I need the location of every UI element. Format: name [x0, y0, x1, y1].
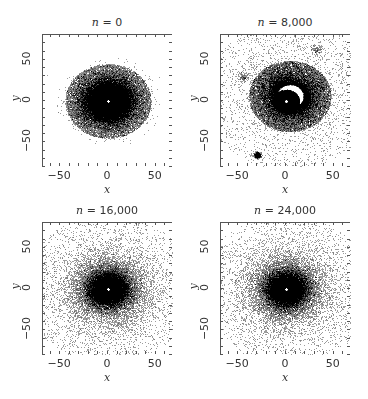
y-tick-mark [169, 288, 172, 289]
y-tick-mark [169, 42, 172, 43]
x-tick-mark [50, 351, 51, 354]
y-tick-mark [169, 34, 172, 35]
x-tick-mark [247, 222, 248, 225]
x-tick-mark [323, 163, 324, 166]
x-tick-label: 0 [104, 169, 111, 182]
x-tick-mark [247, 351, 248, 354]
x-tick-mark [97, 222, 98, 225]
x-tick-mark [285, 34, 286, 37]
y-tick-mark [169, 255, 172, 256]
x-tick-mark [285, 163, 286, 166]
x-tick-mark [88, 351, 89, 354]
y-tick-mark [347, 150, 350, 151]
x-tick-mark [136, 163, 137, 166]
plot-area [220, 222, 350, 354]
y-tick-mark [42, 158, 45, 159]
x-tick-mark [314, 351, 315, 354]
y-tick-mark [347, 42, 350, 43]
title-variable: n [92, 16, 99, 29]
x-axis-label: x [104, 371, 110, 384]
panel-title: n = 8,000 [220, 16, 350, 29]
y-tick-mark [347, 329, 350, 330]
y-tick-mark [42, 141, 45, 142]
x-tick-mark [164, 351, 165, 354]
x-tick-mark [136, 34, 137, 37]
x-tick-label: −50 [48, 357, 71, 370]
y-tick-mark [169, 59, 172, 60]
x-tick-label: 0 [282, 357, 289, 370]
x-tick-label: 50 [326, 357, 340, 370]
y-tick-mark [347, 354, 350, 355]
y-tick-mark [169, 354, 172, 355]
x-tick-mark [266, 163, 267, 166]
y-tick-mark [42, 51, 45, 52]
y-tick-mark [347, 305, 350, 306]
y-tick-mark [169, 117, 172, 118]
x-tick-mark [333, 222, 334, 225]
x-tick-mark [237, 351, 238, 354]
y-tick-mark [347, 263, 350, 264]
x-tick-mark [50, 222, 51, 225]
y-tick-mark [169, 92, 172, 93]
y-tick-label: −50 [198, 317, 211, 341]
x-tick-mark [333, 34, 334, 37]
y-tick-mark [42, 239, 45, 240]
x-tick-mark [117, 163, 118, 166]
x-tick-mark [97, 351, 98, 354]
x-tick-mark [275, 163, 276, 166]
x-tick-mark [333, 163, 334, 166]
y-tick-mark [169, 247, 172, 248]
x-tick-mark [107, 163, 108, 166]
y-axis-label: y [9, 283, 22, 289]
x-tick-mark [155, 351, 156, 354]
panel-title: n = 24,000 [220, 204, 350, 217]
y-tick-mark [347, 280, 350, 281]
x-axis-label: x [282, 183, 288, 196]
x-tick-mark [228, 351, 229, 354]
x-tick-mark [164, 222, 165, 225]
x-tick-mark [342, 222, 343, 225]
x-tick-mark [50, 34, 51, 37]
y-tick-mark [42, 230, 45, 231]
y-tick-mark [42, 34, 45, 35]
y-tick-mark [42, 321, 45, 322]
y-tick-mark [42, 84, 45, 85]
x-tick-mark [78, 163, 79, 166]
x-tick-mark [285, 222, 286, 225]
x-tick-mark [314, 222, 315, 225]
x-tick-label: 0 [282, 169, 289, 182]
x-tick-mark [333, 351, 334, 354]
x-tick-mark [69, 163, 70, 166]
y-tick-mark [220, 288, 223, 289]
y-tick-mark [347, 166, 350, 167]
x-tick-mark [266, 351, 267, 354]
y-tick-mark [347, 84, 350, 85]
y-tick-mark [169, 100, 172, 101]
x-tick-mark [59, 163, 60, 166]
title-value: = 0 [99, 16, 122, 29]
y-tick-mark [347, 255, 350, 256]
y-tick-mark [169, 280, 172, 281]
x-tick-mark [164, 163, 165, 166]
y-tick-mark [347, 239, 350, 240]
x-tick-mark [295, 163, 296, 166]
x-tick-mark [228, 163, 229, 166]
y-tick-mark [42, 329, 45, 330]
x-tick-mark [50, 163, 51, 166]
y-tick-mark [347, 272, 350, 273]
y-tick-mark [347, 92, 350, 93]
x-tick-mark [247, 34, 248, 37]
y-tick-mark [220, 280, 223, 281]
y-tick-mark [42, 247, 45, 248]
plot-area [42, 222, 172, 354]
y-tick-mark [169, 313, 172, 314]
x-tick-mark [107, 34, 108, 37]
x-tick-mark [117, 222, 118, 225]
y-tick-mark [220, 92, 223, 93]
x-tick-mark [107, 222, 108, 225]
y-tick-mark [42, 150, 45, 151]
y-tick-mark [347, 296, 350, 297]
x-tick-mark [237, 222, 238, 225]
x-tick-mark [78, 351, 79, 354]
x-tick-mark [256, 34, 257, 37]
